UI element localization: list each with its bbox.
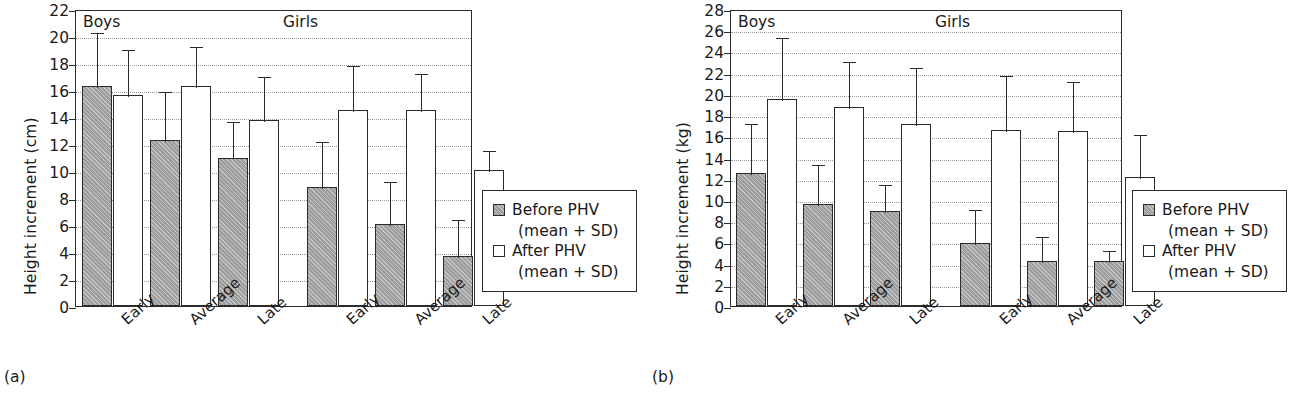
legend-sub-after: (mean + SD): [493, 262, 625, 283]
y-tick-label: 22: [704, 66, 731, 84]
y-tick-label: 10: [704, 193, 731, 211]
error-bar-cap: [122, 50, 135, 51]
y-tick-label: 0: [59, 299, 76, 317]
error-bar: [1042, 237, 1043, 264]
legend-a: Before PHV (mean + SD) After PHV (mean +…: [482, 190, 637, 292]
y-tick-label: 20: [704, 87, 731, 105]
y-axis-title-a: Height increment (cm): [22, 117, 40, 295]
y-tick-label: 6: [59, 218, 76, 236]
error-bar-cap: [258, 77, 271, 78]
y-tick-label: 8: [714, 214, 731, 232]
error-bar-cap: [1000, 76, 1013, 77]
error-bar-cap: [1067, 82, 1080, 83]
y-tick-label: 18: [49, 56, 76, 74]
group-label-boys-b: Boys: [738, 13, 775, 31]
y-tick-label: 0: [714, 299, 731, 317]
legend-entry-after: After PHV: [493, 241, 625, 262]
gridline: [76, 38, 471, 39]
figure-container: Height increment (cm) 024681012141618202…: [0, 0, 1297, 396]
legend-sub-before: (mean + SD): [493, 221, 625, 242]
error-bar-cap: [969, 210, 982, 211]
bar-after-average-girls: [1058, 131, 1088, 306]
gridline: [731, 53, 1121, 54]
y-tick-label: 22: [49, 2, 76, 20]
bar-before-average-boys: [803, 204, 833, 306]
y-tick-label: 14: [49, 110, 76, 128]
error-bar: [849, 62, 850, 109]
bar-after-late-boys: [249, 120, 279, 306]
bar-after-early-boys: [113, 95, 143, 306]
group-label-girls-b: Girls: [935, 13, 970, 31]
y-tick-label: 26: [704, 23, 731, 41]
gridline: [731, 32, 1121, 33]
y-tick-label: 18: [704, 108, 731, 126]
x-axis-label-average-boys: Average: [186, 315, 198, 328]
legend-label-before: Before PHV: [1162, 200, 1249, 221]
legend-swatch-before-icon: [493, 204, 505, 216]
error-bar: [390, 182, 391, 225]
error-bar: [751, 124, 752, 175]
gridline: [76, 65, 471, 66]
error-bar: [128, 50, 129, 97]
x-axis-label-early-boys: Early: [772, 315, 784, 328]
error-bar-cap: [316, 142, 329, 143]
chart-panel-a: Height increment (cm) 024681012141618202…: [0, 0, 648, 396]
panel-caption-b: (b): [652, 368, 674, 386]
y-tick-label: 8: [59, 191, 76, 209]
chart-panel-b: Height increment (kg) 024681012141618202…: [648, 0, 1297, 396]
legend-label-after: After PHV: [512, 241, 586, 262]
bar-before-average-girls: [375, 224, 405, 306]
y-tick-label: 28: [704, 2, 731, 20]
x-axis-label-early-boys: Early: [118, 315, 130, 328]
error-bar-cap: [879, 185, 892, 186]
error-bar: [196, 47, 197, 88]
error-bar-cap: [483, 151, 496, 152]
error-bar-cap: [415, 74, 428, 75]
gridline: [731, 96, 1121, 97]
bar-after-early-girls: [338, 110, 368, 306]
x-axis-label-late-girls: Late: [1130, 315, 1142, 328]
error-bar: [322, 142, 323, 189]
y-tick-label: 20: [49, 29, 76, 47]
panel-caption-a: (a): [4, 368, 26, 386]
legend-entry-after: After PHV: [1143, 241, 1275, 262]
legend-swatch-after-icon: [1143, 245, 1155, 257]
legend-sub-after: (mean + SD): [1143, 262, 1275, 283]
x-axis-label-late-boys: Late: [254, 315, 266, 328]
bar-before-early-girls: [307, 187, 337, 306]
error-bar-cap: [227, 122, 240, 123]
error-bar: [818, 165, 819, 206]
x-axis-label-late-girls: Late: [479, 315, 491, 328]
legend-entry-before: Before PHV: [1143, 200, 1275, 221]
bar-before-average-boys: [150, 140, 180, 306]
error-bar: [1073, 82, 1074, 133]
bar-before-early-boys: [82, 86, 112, 306]
error-bar: [916, 68, 917, 125]
error-bar-cap: [159, 92, 172, 93]
error-bar: [885, 185, 886, 213]
error-bar: [165, 92, 166, 142]
bar-after-average-boys: [834, 107, 864, 306]
error-bar-cap: [745, 124, 758, 125]
x-axis-label-early-girls: Early: [996, 315, 1008, 328]
y-tick-label: 10: [49, 164, 76, 182]
error-bar-cap: [190, 47, 203, 48]
error-bar: [975, 210, 976, 245]
group-label-boys-a: Boys: [83, 13, 120, 31]
error-bar-cap: [776, 38, 789, 39]
error-bar-cap: [91, 33, 104, 34]
y-axis-title-b: Height increment (kg): [674, 122, 692, 295]
error-bar-cap: [812, 165, 825, 166]
gridline: [731, 75, 1121, 76]
error-bar-cap: [910, 68, 923, 69]
bar-before-early-girls: [960, 243, 990, 306]
legend-label-before: Before PHV: [512, 200, 599, 221]
y-tick-label: 12: [49, 137, 76, 155]
bar-before-early-boys: [736, 173, 766, 306]
y-tick-label: 24: [704, 44, 731, 62]
legend-entry-before: Before PHV: [493, 200, 625, 221]
legend-sub-before: (mean + SD): [1143, 221, 1275, 242]
legend-label-after: After PHV: [1162, 241, 1236, 262]
legend-swatch-after-icon: [493, 245, 505, 257]
y-tick-label: 2: [714, 278, 731, 296]
